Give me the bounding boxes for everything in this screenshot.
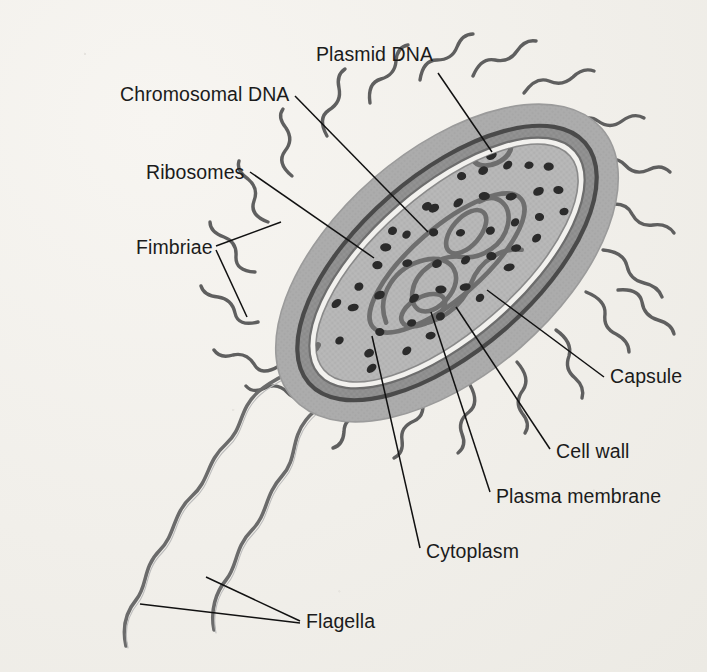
prokaryotic-cell-figure: Plasmid DNA Chromosomal DNA Ribosomes Fi…	[0, 0, 707, 672]
cell-diagram-svg	[0, 0, 707, 672]
fimbria	[214, 350, 279, 371]
flagella-leader-a	[206, 577, 300, 621]
label-ribosomes: Ribosomes	[146, 163, 244, 183]
label-flagella: Flagella	[306, 612, 375, 632]
label-chromosomal-dna: Chromosomal DNA	[120, 85, 289, 105]
fimbria	[606, 204, 674, 233]
fimbria	[618, 290, 674, 334]
label-cell-wall: Cell wall	[556, 442, 630, 462]
fimbria	[473, 41, 536, 76]
label-fimbriae: Fimbriae	[136, 238, 213, 258]
fimbria	[556, 330, 583, 398]
fimbria	[201, 286, 258, 323]
fimbria	[586, 292, 629, 352]
fimbriae-leader-a	[216, 222, 281, 246]
label-plasma-membrane: Plasma membrane	[496, 487, 661, 507]
label-cytoplasm: Cytoplasm	[426, 542, 519, 562]
fimbria	[322, 69, 345, 136]
label-capsule: Capsule	[610, 367, 682, 387]
flagellum-1	[124, 356, 318, 646]
flagella-leader-b	[140, 604, 300, 623]
fimbria	[281, 109, 292, 176]
fimbria	[210, 222, 255, 272]
fimbria	[524, 70, 594, 93]
fimbria	[517, 362, 527, 433]
label-plasmid-dna: Plasmid DNA	[316, 45, 433, 65]
